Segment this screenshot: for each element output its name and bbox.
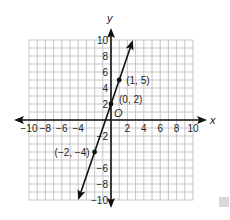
y-tick-label: 6 xyxy=(102,67,108,78)
x-tick-labels: −10−8−6−4246810 xyxy=(21,123,199,134)
data-point xyxy=(109,102,114,107)
x-tick-label: 10 xyxy=(187,123,199,134)
data-point xyxy=(117,78,122,83)
y-tick-label: −6 xyxy=(97,163,109,174)
x-tick-label: −4 xyxy=(72,123,84,134)
x-tick-label: 8 xyxy=(174,123,180,134)
x-tick-label: 2 xyxy=(125,123,131,134)
data-point-label: (−2, −4) xyxy=(55,147,90,158)
data-point-label: (1, 5) xyxy=(126,75,149,86)
y-tick-label: 8 xyxy=(102,51,108,62)
x-axis-title: x xyxy=(209,114,216,126)
y-tick-label: −8 xyxy=(97,179,109,190)
x-tick-label: 4 xyxy=(141,123,147,134)
x-tick-label: −6 xyxy=(56,123,68,134)
x-tick-label: 6 xyxy=(157,123,163,134)
corner-square xyxy=(219,197,229,207)
y-tick-label: 4 xyxy=(102,83,108,94)
x-tick-label: −10 xyxy=(21,123,38,134)
y-tick-label: 10 xyxy=(97,35,109,46)
data-point-label: (0, 2) xyxy=(119,94,142,105)
axes: x y O xyxy=(14,12,216,208)
y-axis-title: y xyxy=(106,12,114,24)
y-tick-label: −10 xyxy=(91,195,108,206)
origin-label: O xyxy=(114,107,123,119)
data-point xyxy=(92,150,97,155)
x-tick-label: −8 xyxy=(40,123,52,134)
y-tick-label: 2 xyxy=(102,99,108,110)
coordinate-plane: x y O −10−8−6−4246810 108642−2−6−8−10 (−… xyxy=(0,0,230,220)
